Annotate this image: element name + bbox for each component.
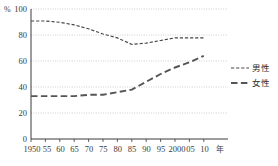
line-chart: 100 80 60 40 20 0 % 1950 55 60 65 70 75 … <box>0 0 278 166</box>
x-axis-labels: 1950 55 60 65 70 75 80 85 90 95 2000 05 … <box>24 144 225 154</box>
y-axis-labels: 100 80 60 40 20 0 <box>14 4 27 144</box>
y-axis-unit-label: % <box>4 5 11 14</box>
legend-label-female: 女性 <box>252 78 270 88</box>
legend: 男性 女性 <box>231 63 270 88</box>
x-tick-label-1995: 95 <box>157 144 166 154</box>
y-tick-label-0: 0 <box>23 134 27 144</box>
series-line-female <box>31 56 204 96</box>
x-tick-label-1950: 1950 <box>24 144 41 154</box>
gridlines <box>31 9 228 113</box>
series-line-male <box>31 21 204 44</box>
y-tick-label-20: 20 <box>19 108 28 118</box>
x-tick-label-1985: 85 <box>128 144 137 154</box>
x-tick-label-2010: 10 <box>200 144 209 154</box>
x-axis-unit-label: 年 <box>216 144 224 154</box>
x-tick-label-1990: 90 <box>142 144 151 154</box>
x-tick-label-1970: 70 <box>85 144 94 154</box>
y-tick-label-40: 40 <box>19 82 28 92</box>
x-tick-label-1975: 75 <box>99 144 108 154</box>
axes <box>31 9 228 139</box>
legend-label-male: 男性 <box>252 63 270 73</box>
chart-page: 100 80 60 40 20 0 % 1950 55 60 65 70 75 … <box>0 0 278 166</box>
y-tick-label-60: 60 <box>19 56 28 66</box>
x-tick-label-1960: 60 <box>56 144 65 154</box>
x-tick-label-1965: 65 <box>70 144 79 154</box>
x-tick-label-2005: 05 <box>186 144 195 154</box>
x-tick-label-2000: 2000 <box>169 144 186 154</box>
x-tick-label-1980: 80 <box>113 144 122 154</box>
y-tick-label-100: 100 <box>14 4 27 14</box>
x-tick-label-1955: 55 <box>43 144 52 154</box>
y-tick-label-80: 80 <box>19 30 28 40</box>
